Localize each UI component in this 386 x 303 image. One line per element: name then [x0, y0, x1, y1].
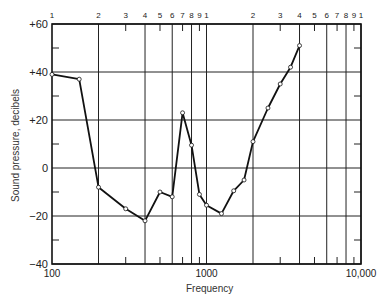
data-point	[97, 185, 101, 189]
x-axis-label: Frequency	[186, 283, 233, 294]
y-axis-label: Sound pressure, decibels	[10, 86, 21, 206]
x-top-tick-label: 9	[352, 11, 357, 20]
x-bottom-tick-labels: 100100010,000	[44, 268, 377, 279]
data-point	[251, 140, 255, 144]
data-point	[298, 44, 302, 48]
x-top-tick-label: 3	[278, 11, 283, 20]
data-points	[50, 44, 302, 223]
data-point	[197, 192, 201, 196]
x-top-tick-label: 4	[143, 11, 148, 20]
x-top-tick-label: 5	[158, 11, 163, 20]
y-tick-labels: +60+40+200−20−40	[29, 18, 48, 270]
data-point	[170, 195, 174, 199]
data-point	[124, 207, 128, 211]
x-top-tick-label: 4	[297, 11, 302, 20]
x-top-tick-label: 5	[312, 11, 317, 20]
x-top-tick-label: 6	[170, 11, 175, 20]
data-point	[181, 111, 185, 115]
x-top-tick-label: 8	[344, 11, 349, 20]
x-bottom-tick-label: 1000	[195, 268, 218, 279]
data-point	[266, 106, 270, 110]
sound-pressure-chart: +60+40+200−20−40 1234567891234567891 100…	[0, 0, 386, 303]
y-tick-label: −20	[29, 210, 48, 222]
y-tick-label: 0	[42, 162, 48, 174]
x-top-tick-label: 2	[251, 11, 256, 20]
y-tick-label: +60	[29, 18, 48, 30]
data-point	[77, 77, 81, 81]
x-bottom-tick-label: 100	[44, 268, 61, 279]
y-tick-label: +40	[29, 66, 48, 78]
x-top-tick-label: 1	[50, 11, 55, 20]
x-top-tick-label: 6	[324, 11, 329, 20]
x-top-tick-label: 7	[180, 11, 185, 20]
data-point	[219, 212, 223, 216]
x-top-tick-label: 2	[96, 11, 101, 20]
x-bottom-tick-label: 10,000	[346, 268, 377, 279]
grid-lines	[52, 24, 361, 264]
x-top-tick-labels: 1234567891234567891	[50, 11, 364, 20]
data-point	[205, 203, 209, 207]
x-top-tick-label: 3	[123, 11, 128, 20]
data-point	[232, 189, 236, 193]
data-point	[289, 65, 293, 69]
data-point	[190, 143, 194, 147]
y-tick-label: +20	[29, 114, 48, 126]
x-top-tick-label: 8	[189, 11, 194, 20]
x-top-tick-label: 7	[335, 11, 340, 20]
data-point	[278, 82, 282, 86]
x-top-tick-label: 1	[359, 11, 364, 20]
x-top-tick-label: 9	[197, 11, 202, 20]
data-point	[143, 219, 147, 223]
data-point	[242, 178, 246, 182]
data-point	[50, 72, 54, 76]
x-top-tick-label: 1	[204, 11, 209, 20]
data-point	[158, 190, 162, 194]
